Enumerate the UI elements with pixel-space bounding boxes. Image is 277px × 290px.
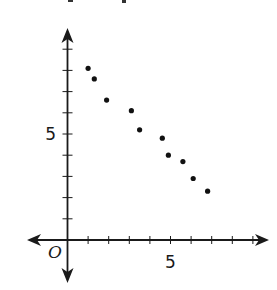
data-point <box>92 76 97 81</box>
axis-ticks <box>63 49 253 244</box>
data-point <box>205 189 210 194</box>
data-point <box>166 153 171 158</box>
y-tick-label-5: 5 <box>45 124 56 144</box>
data-point <box>129 108 134 113</box>
data-point <box>104 98 109 103</box>
data-point <box>191 176 196 181</box>
data-points <box>86 66 211 194</box>
scatter-plot: 5 5 O <box>0 0 277 290</box>
x-tick-label-5: 5 <box>165 252 176 272</box>
data-point <box>160 136 165 141</box>
origin-label: O <box>48 242 62 262</box>
data-point <box>180 159 185 164</box>
cropped-header-text <box>68 0 126 3</box>
data-point <box>137 127 142 132</box>
data-point <box>86 66 91 71</box>
